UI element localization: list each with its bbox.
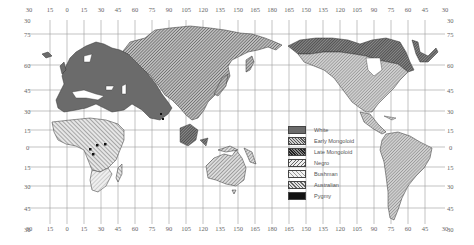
lon-label: 15 [81, 225, 88, 232]
region-early-mongoloid-south-america [380, 132, 432, 220]
legend-label: White [314, 127, 328, 133]
lat-label: 75 [24, 31, 31, 38]
lat-label: 45 [447, 205, 454, 212]
lon-label: 75 [388, 6, 395, 13]
lon-label: 90 [166, 6, 173, 13]
lat-label: 60 [447, 62, 454, 69]
lon-label: 75 [149, 225, 156, 232]
swatch-pygmy [288, 192, 306, 200]
region-se-asia-islands [180, 124, 208, 146]
world-race-map: 30 15 0 15 30 45 60 75 90 105 120 135 15… [0, 0, 474, 245]
lat-label: 60 [24, 62, 31, 69]
swatch-bushman [288, 170, 306, 178]
lat-label: 30 [447, 108, 454, 115]
legend-label: Early Mongoloid [314, 138, 354, 144]
lat-label: 15 [24, 164, 31, 171]
lon-label: 15 [81, 6, 88, 13]
swatch-early-mongoloid [288, 137, 306, 145]
lon-label: 120 [335, 225, 345, 232]
legend-item-early-mongoloid: Early Mongoloid [288, 136, 368, 146]
lon-label: 135 [318, 6, 328, 13]
lon-label: 30 [442, 6, 449, 13]
lat-label: 30 [24, 108, 31, 115]
legend-label: Australian [314, 182, 339, 188]
lat-label: 0 [449, 144, 452, 151]
lon-label: 60 [132, 6, 139, 13]
lat-label: 30 [24, 183, 31, 190]
lon-label: 165 [284, 6, 294, 13]
lon-label: 90 [166, 225, 173, 232]
lon-label: 150 [301, 225, 311, 232]
swatch-late-mongoloid [288, 148, 306, 156]
lon-label: 60 [132, 225, 139, 232]
legend-label: Negro [314, 160, 329, 166]
lon-label: 30 [98, 225, 105, 232]
lat-label: 45 [24, 205, 31, 212]
legend-item-bushman: Bushman [288, 169, 368, 179]
legend-item-pygmy: Pygmy [288, 191, 368, 201]
lon-label: 165 [284, 225, 294, 232]
lon-label: 135 [318, 225, 328, 232]
region-bushman-southern-africa [90, 168, 112, 192]
lat-label: 15 [447, 127, 454, 134]
lon-label: 150 [233, 6, 243, 13]
swatch-australian [288, 181, 306, 189]
legend-label: Bushman [314, 171, 338, 177]
lat-label: 15 [447, 164, 454, 171]
lon-label: 105 [181, 225, 191, 232]
lat-label: 30 [447, 226, 454, 233]
lat-label: 75 [447, 31, 454, 38]
lat-label: 45 [447, 87, 454, 94]
legend-label: Late Mongoloid [314, 149, 352, 155]
lon-label: 90 [371, 225, 378, 232]
region-australian [206, 150, 246, 186]
lon-label: 0 [65, 225, 68, 232]
lat-label: 30 [447, 17, 454, 24]
lon-label: 105 [352, 6, 362, 13]
lon-label: 135 [215, 6, 225, 13]
lat-label: 30 [24, 226, 31, 233]
lon-label: 180 [267, 225, 277, 232]
lon-label: 30 [98, 6, 105, 13]
lon-label: 120 [335, 6, 345, 13]
lon-label: 120 [198, 225, 208, 232]
lon-label: 75 [149, 6, 156, 13]
lon-label: 105 [352, 225, 362, 232]
lon-label: 45 [422, 6, 429, 13]
lon-label: 60 [405, 6, 412, 13]
region-kamchatka [246, 56, 254, 72]
lon-label: 75 [388, 225, 395, 232]
lon-label: 15 [47, 225, 54, 232]
lon-label: 30 [26, 6, 33, 13]
map-canvas [0, 0, 474, 245]
legend-item-late-mongoloid: Late Mongoloid [288, 147, 368, 157]
lon-label: 150 [301, 6, 311, 13]
lat-label: 45 [24, 87, 31, 94]
swatch-negro [288, 159, 306, 167]
lon-label: 135 [215, 225, 225, 232]
lon-label: 105 [181, 6, 191, 13]
lon-label: 45 [115, 225, 122, 232]
region-tasmania [232, 190, 236, 194]
lon-label: 0 [65, 6, 68, 13]
lon-label: 90 [371, 6, 378, 13]
lat-label: 0 [26, 144, 29, 151]
region-negro-africa [52, 118, 124, 172]
lon-label: 150 [233, 225, 243, 232]
region-caribbean [384, 116, 396, 120]
legend: White Early Mongoloid Late Mongoloid Neg… [288, 125, 368, 202]
lat-label: 15 [24, 127, 31, 134]
lon-label: 165 [250, 6, 260, 13]
lon-label: 45 [422, 225, 429, 232]
lon-label: 120 [198, 6, 208, 13]
lon-label: 45 [115, 6, 122, 13]
legend-item-white: White [288, 125, 368, 135]
legend-item-australian: Australian [288, 180, 368, 190]
swatch-white [288, 126, 306, 134]
legend-item-negro: Negro [288, 158, 368, 168]
lon-label: 180 [267, 6, 277, 13]
lat-label: 30 [24, 17, 31, 24]
legend-label: Pygmy [314, 193, 331, 199]
region-melanesia [244, 148, 256, 164]
lat-label: 30 [447, 183, 454, 190]
